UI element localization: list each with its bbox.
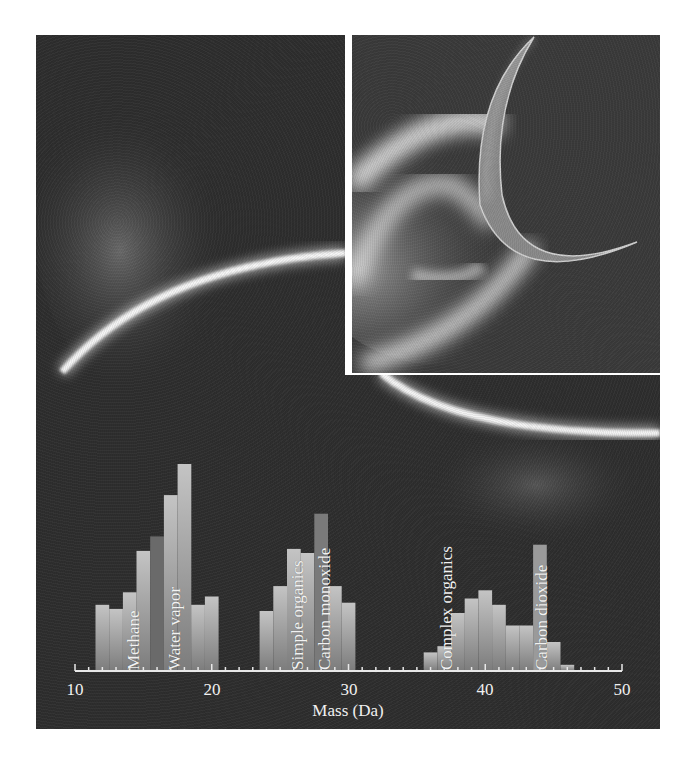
bar-mass-40 [478, 590, 492, 671]
bar-mass-39 [465, 599, 479, 671]
bar-mass-16 [150, 536, 164, 671]
x-tick-20: 20 [204, 680, 221, 700]
x-tick-10: 10 [67, 680, 84, 700]
label-water-vapor: Water vapor [165, 587, 185, 670]
label-carbon-dioxide: Carbon dioxide [532, 565, 552, 670]
crescent-plume-image [345, 35, 660, 375]
bar-mass-24 [260, 611, 274, 671]
crescent-plume-graphic [352, 35, 660, 373]
label-complex-organics: Complex organics [437, 546, 457, 670]
bar-mass-19 [191, 605, 205, 671]
bar-mass-25 [273, 586, 287, 671]
x-tick-50: 50 [614, 680, 631, 700]
label-simple-organics: Simple organics [288, 560, 308, 670]
bar-mass-42 [506, 626, 520, 672]
bar-mass-20 [205, 597, 219, 672]
x-axis-title: Mass (Da) [312, 701, 383, 721]
bar-mass-12 [96, 605, 110, 671]
bar-mass-13 [109, 609, 123, 671]
bar-mass-30 [342, 603, 356, 671]
bar-mass-41 [492, 605, 506, 671]
label-methane: Methane [124, 611, 144, 670]
x-tick-30: 30 [341, 680, 358, 700]
label-carbon-monoxide: Carbon monoxide [315, 548, 335, 670]
x-tick-40: 40 [477, 680, 494, 700]
